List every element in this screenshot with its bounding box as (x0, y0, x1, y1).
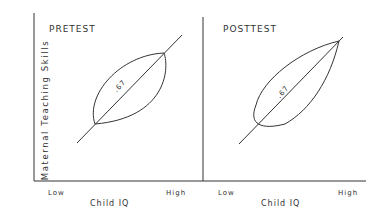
pretest-x-tick-high: High (166, 189, 186, 197)
posttest-x-axis-label: Child IQ (261, 199, 300, 208)
y-axis-label: Maternal Teaching Skills (40, 35, 50, 185)
pretest-x-tick-low: Low (48, 189, 65, 197)
pretest-regression-line (77, 35, 182, 143)
posttest-regression-line (239, 37, 343, 144)
pretest-title: PRETEST (49, 24, 96, 34)
posttest-axes (190, 17, 366, 181)
pretest-x-axis-label: Child IQ (90, 199, 129, 208)
posttest-x-tick-high: High (338, 189, 358, 197)
posttest-x-tick-low: Low (218, 189, 235, 197)
posttest-title: POSTTEST (223, 24, 277, 34)
pretest-axes (34, 13, 190, 181)
